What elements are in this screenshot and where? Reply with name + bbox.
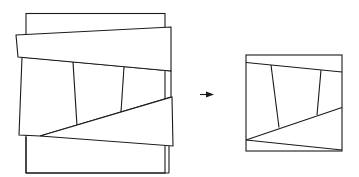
arrow-head bbox=[206, 92, 214, 98]
square-outline bbox=[246, 55, 342, 151]
upper-diagonal bbox=[246, 63, 342, 73]
lower-diagonal bbox=[246, 108, 342, 141]
source-figure bbox=[16, 14, 173, 174]
square-inner-divider-right bbox=[317, 70, 321, 115]
square-inner-divider-left bbox=[271, 65, 279, 128]
bottom-diagonal bbox=[246, 140, 342, 150]
result-square bbox=[246, 55, 342, 151]
arrow-right-icon bbox=[200, 92, 214, 98]
dissection-diagram bbox=[0, 0, 359, 177]
